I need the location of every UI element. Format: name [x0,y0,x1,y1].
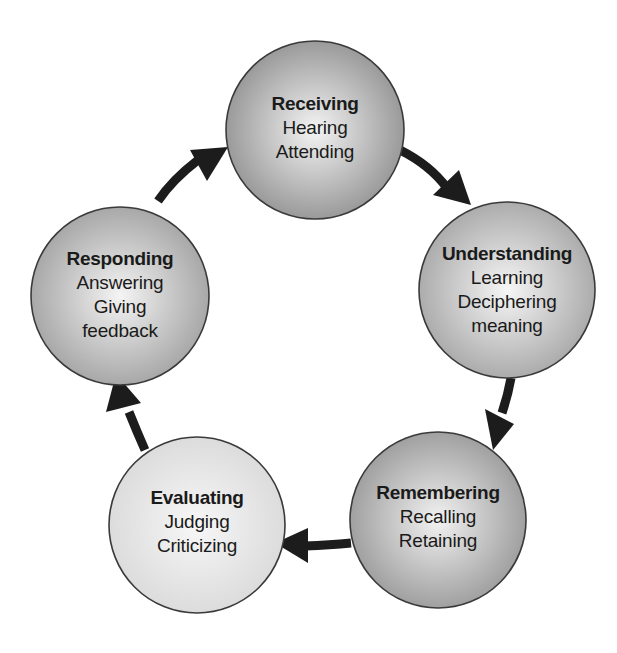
arrow-responding-to-receiving [158,147,228,201]
node-line: Learning [422,266,592,290]
node-evaluating: Evaluating Judging Criticizing [112,486,282,558]
arrow-remembering-to-evaluating [275,528,351,563]
node-line: Hearing [230,116,400,140]
node-line: feedback [35,319,205,343]
node-line: Giving [35,295,205,319]
node-responding: Responding Answering Giving feedback [35,247,205,343]
node-line: Criticizing [112,534,282,558]
node-remembering: Remembering Recalling Retaining [353,481,523,553]
node-understanding: Understanding Learning Deciphering meani… [422,242,592,338]
node-line: Judging [112,510,282,534]
node-line: Retaining [353,529,523,553]
node-receiving: Receiving Hearing Attending [230,92,400,164]
node-line: Deciphering [422,290,592,314]
node-line: Attending [230,140,400,164]
node-title: Responding [35,247,205,271]
node-title: Remembering [353,481,523,505]
node-title: Evaluating [112,486,282,510]
node-title: Receiving [230,92,400,116]
node-line: Answering [35,271,205,295]
node-line: meaning [422,314,592,338]
arrow-receiving-to-understanding [400,150,471,205]
node-line: Recalling [353,505,523,529]
arrow-understanding-to-remembering [485,378,514,450]
node-title: Understanding [422,242,592,266]
